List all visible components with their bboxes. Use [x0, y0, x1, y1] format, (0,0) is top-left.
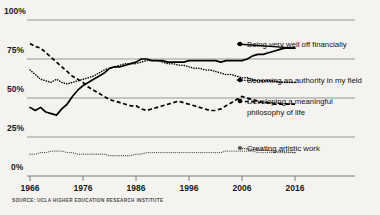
source-note: SOURCE: UCLA HIGHER EDUCATION RESEARCH I…	[12, 198, 163, 203]
legend-label-artistic: Creating artistic work	[247, 144, 320, 153]
x-tick-label-2006: 2006	[233, 183, 252, 193]
y-tick-label-100: 100%	[4, 6, 26, 16]
legend-label-authority: Becoming an authority in my field	[247, 76, 362, 85]
x-tick-label-1986: 1986	[127, 183, 146, 193]
legend-marker-philosophy	[238, 99, 243, 104]
y-tick-label-75: 75%	[7, 45, 24, 55]
legend-marker-authority	[238, 78, 243, 83]
chart-container: 100% 75% 50% 25% 0% 1966 1976 1986 1996 …	[0, 0, 380, 215]
x-ticks	[30, 176, 295, 181]
legend-marker-artistic	[238, 146, 242, 150]
legend-marker-well-off	[238, 42, 243, 47]
y-tick-label-50: 50%	[7, 84, 24, 94]
legend-label-well-off: Being very well off financially	[247, 40, 347, 49]
x-tick-label-2016: 2016	[286, 183, 305, 193]
line-chart: 100% 75% 50% 25% 0% 1966 1976 1986 1996 …	[0, 0, 380, 215]
x-tick-label-1966: 1966	[21, 183, 40, 193]
x-tick-label-1996: 1996	[180, 183, 199, 193]
legend-label-philosophy-line2: philosophy of life	[247, 108, 305, 117]
x-tick-label-1976: 1976	[74, 183, 93, 193]
y-tick-label-0: 0%	[11, 162, 24, 172]
y-tick-label-25: 25%	[7, 123, 24, 133]
legend-label-philosophy-line1: Developing a meaningful	[247, 97, 333, 106]
